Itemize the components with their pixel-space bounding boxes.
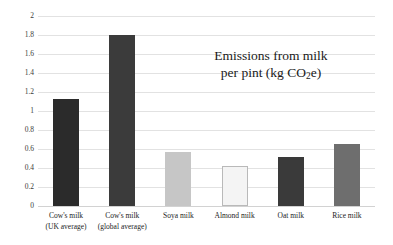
x-axis-tick-label: Almond milk <box>214 211 254 222</box>
bar <box>278 157 304 206</box>
chart-title-line-1: Emissions from milk <box>214 48 327 63</box>
x-axis-tick-label-line-2: (global average) <box>98 222 147 233</box>
y-axis-tick-label: 0.4 <box>0 164 34 172</box>
x-axis-tick-label-line-2: (UK average) <box>46 222 87 233</box>
y-axis-tick-label: 0 <box>0 202 34 210</box>
y-axis-tick-label: 0.2 <box>0 183 34 191</box>
y-axis-tick-label: 1.2 <box>0 88 34 96</box>
gridline <box>38 130 375 131</box>
gridline <box>38 187 375 188</box>
gridline <box>38 149 375 150</box>
gridline <box>38 168 375 169</box>
gridline <box>38 35 375 36</box>
y-axis-tick-label: 0.6 <box>0 145 34 153</box>
chart-title-line-2: per pint (kg CO2e) <box>176 64 366 83</box>
x-axis-tick-label-line-1: Oat milk <box>278 211 304 220</box>
gridline <box>38 111 375 112</box>
y-axis-tick-label: 1.8 <box>0 31 34 39</box>
chart-title-line-2-post: e) <box>311 65 322 80</box>
bar <box>222 166 248 206</box>
bar-chart: Cow's milk(UK average)Cow's milk(global … <box>0 0 393 245</box>
y-axis-tick-label: 1.6 <box>0 50 34 58</box>
chart-title-subscript: 2 <box>306 71 311 81</box>
x-axis-tick-label-line-1: Soya milk <box>163 211 194 220</box>
gridline <box>38 206 375 207</box>
x-axis-tick-label: Soya milk <box>163 211 194 222</box>
gridline <box>38 92 375 93</box>
bar <box>53 99 79 206</box>
bar <box>109 35 135 206</box>
x-axis-tick-label: Cow's milk(global average) <box>98 211 147 232</box>
x-axis-tick-label: Oat milk <box>278 211 304 222</box>
plot-area <box>38 16 375 206</box>
x-axis-tick-label-line-1: Cow's milk <box>105 211 139 220</box>
x-axis-tick-label: Cow's milk(UK average) <box>46 211 87 232</box>
bar <box>165 152 191 206</box>
y-axis-tick-label: 1 <box>0 107 34 115</box>
y-axis-tick-label: 1.4 <box>0 69 34 77</box>
y-axis-tick-label: 2 <box>0 12 34 20</box>
chart-title-line-2-pre: per pint (kg CO <box>221 65 306 80</box>
gridline <box>38 16 375 17</box>
x-axis-tick-label-line-1: Almond milk <box>214 211 254 220</box>
x-axis-tick-label-line-1: Rice milk <box>332 211 361 220</box>
bar <box>334 144 360 206</box>
x-axis-tick-label: Rice milk <box>332 211 361 222</box>
x-axis-tick-label-line-1: Cow's milk <box>49 211 83 220</box>
chart-title: Emissions from milk per pint (kg CO2e) <box>176 47 366 83</box>
y-axis-tick-label: 0.8 <box>0 126 34 134</box>
